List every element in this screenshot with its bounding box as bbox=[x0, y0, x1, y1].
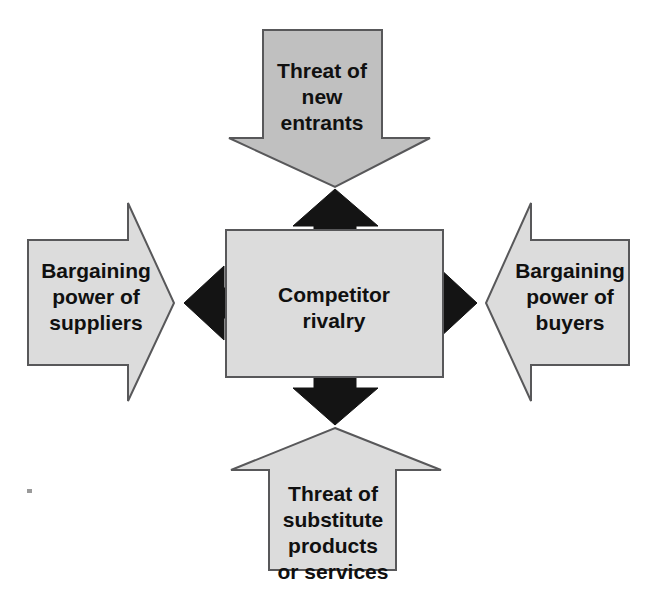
bargaining-power-of-buyers-label-line3: buyers bbox=[536, 311, 605, 334]
bargaining-power-of-suppliers-label-line2: power of bbox=[52, 285, 141, 308]
competitor-rivalry-label-line2: rivalry bbox=[302, 309, 365, 332]
force-bargaining-power-of-buyers[interactable]: Bargaining power of buyers bbox=[486, 203, 629, 401]
threat-of-substitute-label-line4: or services bbox=[278, 560, 389, 583]
threat-of-new-entrants-arrow-shape[interactable] bbox=[229, 30, 430, 187]
threat-of-new-entrants-label-line1: Threat of bbox=[277, 59, 368, 82]
threat-of-substitute-label-line1: Threat of bbox=[288, 482, 379, 505]
center-competitor-rivalry[interactable]: Competitor rivalry bbox=[226, 230, 443, 377]
force-threat-of-substitute-products-or-services[interactable]: Threat of substitute products or service… bbox=[231, 428, 441, 583]
threat-of-new-entrants-label-line2: new bbox=[302, 85, 344, 108]
force-threat-of-new-entrants[interactable]: Threat of new entrants bbox=[229, 30, 430, 187]
force-bargaining-power-of-suppliers[interactable]: Bargaining power of suppliers bbox=[28, 203, 174, 401]
connector-down-arrow-icon bbox=[293, 374, 378, 425]
competitor-rivalry-label-line1: Competitor bbox=[278, 283, 390, 306]
bargaining-power-of-buyers-label-line1: Bargaining bbox=[515, 259, 625, 282]
threat-of-substitute-label-line3: products bbox=[288, 534, 378, 557]
five-forces-diagram: Threat of new entrants Bargaining power … bbox=[0, 0, 651, 596]
bargaining-power-of-buyers-label-line2: power of bbox=[526, 285, 615, 308]
bargaining-power-of-suppliers-label-line3: suppliers bbox=[49, 311, 142, 334]
five-forces-canvas: Threat of new entrants Bargaining power … bbox=[0, 0, 651, 596]
scan-speck bbox=[27, 489, 32, 493]
threat-of-substitute-label-line2: substitute bbox=[283, 508, 383, 531]
bargaining-power-of-suppliers-label-line1: Bargaining bbox=[41, 259, 151, 282]
threat-of-new-entrants-label-line3: entrants bbox=[281, 111, 364, 134]
